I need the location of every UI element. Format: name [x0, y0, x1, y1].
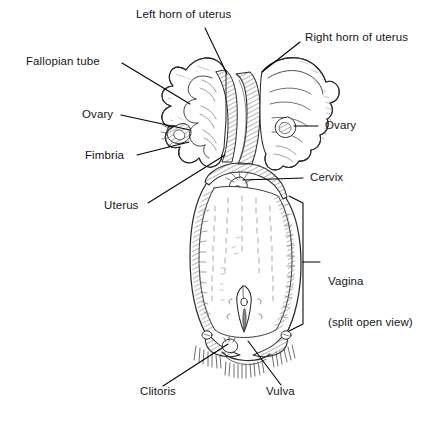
label-vagina: Vagina (split open view) [328, 248, 413, 356]
left-horn-of-uterus-shape [162, 58, 237, 167]
right-horn-of-uterus-shape [260, 58, 339, 170]
vagina-shape [190, 184, 301, 338]
label-vulva: Vulva [266, 385, 295, 398]
right-ovary-shape [275, 117, 296, 138]
uterus-body-shape [236, 72, 260, 164]
label-left-horn-of-uterus: Left horn of uterus [136, 8, 231, 21]
label-cervix: Cervix [310, 171, 343, 184]
label-ovary-right: Ovary [325, 119, 356, 132]
label-right-horn-of-uterus: Right horn of uterus [305, 31, 408, 44]
label-fallopian-tube: Fallopian tube [26, 55, 100, 68]
clitoris-shape [222, 337, 237, 353]
label-vagina-line1: Vagina [328, 275, 413, 289]
label-vagina-line2: (split open view) [328, 316, 413, 330]
label-ovary-left: Ovary [82, 108, 113, 121]
label-fimbria: Fimbria [85, 149, 124, 162]
label-uterus: Uterus [104, 199, 138, 212]
label-clitoris: Clitoris [140, 385, 176, 398]
diagram-canvas: Left horn of uterus Right horn of uterus… [0, 0, 434, 421]
